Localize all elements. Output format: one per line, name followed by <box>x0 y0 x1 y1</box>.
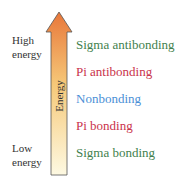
high-energy-label: High energy <box>12 33 42 61</box>
high-label-line2: energy <box>12 47 42 61</box>
level-nonbonding: Nonbonding <box>76 91 141 107</box>
level-pi-bonding: Pi bonding <box>76 118 133 134</box>
low-label-line1: Low <box>12 141 42 155</box>
level-sigma-bonding: Sigma bonding <box>76 145 155 161</box>
low-label-line2: energy <box>12 155 42 169</box>
level-pi-antibonding: Pi antibonding <box>76 64 152 80</box>
low-energy-label: Low energy <box>12 141 42 169</box>
level-sigma-antibonding: Sigma antibonding <box>76 37 175 53</box>
high-label-line1: High <box>12 33 42 47</box>
axis-label: Energy <box>53 80 65 112</box>
